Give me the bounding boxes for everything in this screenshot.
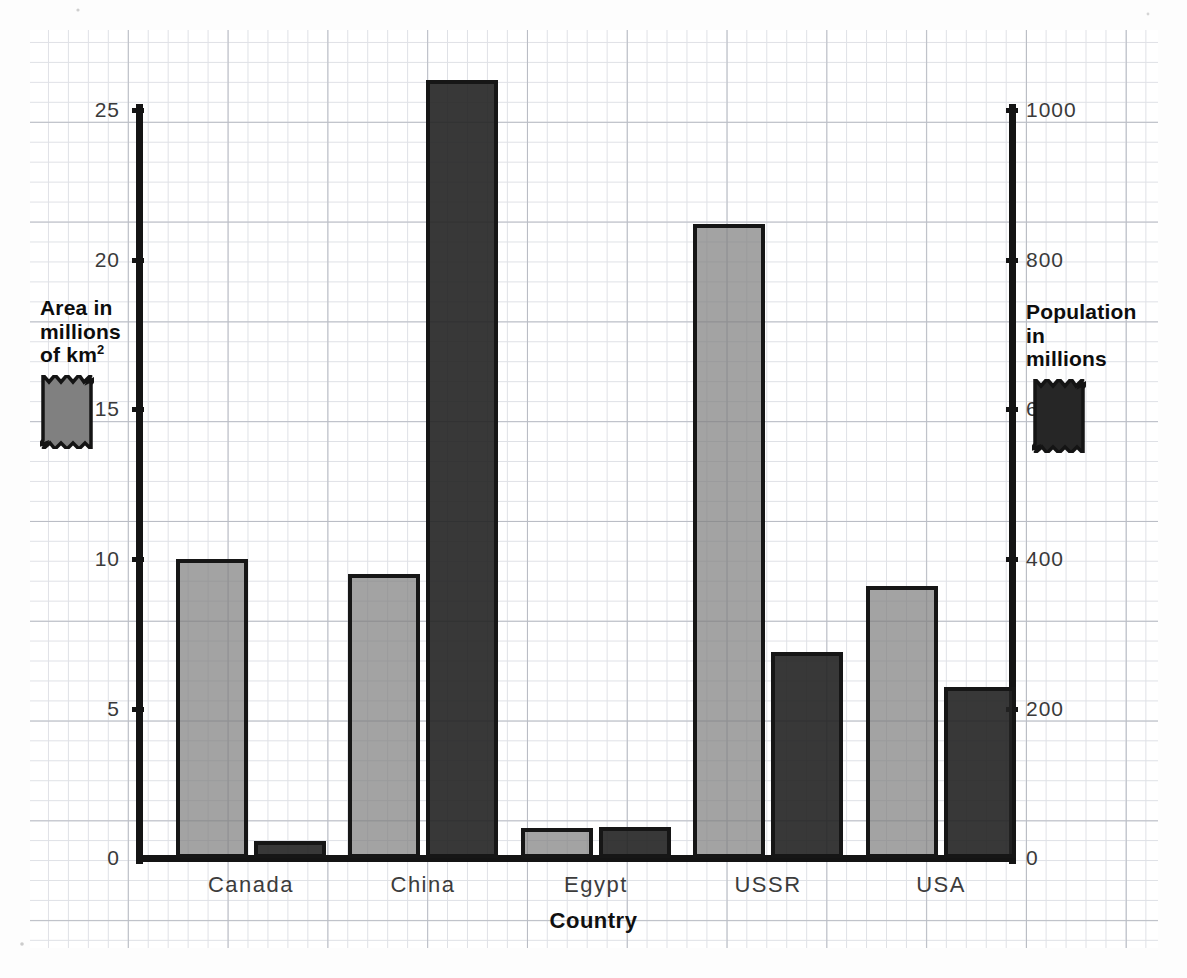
bar-area-egypt (521, 828, 593, 858)
x-axis-label-china: China (328, 872, 518, 898)
y-left-tick-20 (132, 258, 144, 263)
x-axis-label-usa: USA (846, 872, 1036, 898)
y-axis-left-line (136, 104, 143, 864)
x-axis-label-ussr: USSR (673, 872, 863, 898)
legend-area-line1: Area in (40, 296, 121, 320)
bar-area-china (348, 574, 420, 858)
legend-area-line3: of km2 (40, 343, 121, 367)
legend-population: Population in millions (1026, 300, 1137, 453)
bar-area-canada (176, 559, 248, 858)
x-axis-title: Country (0, 908, 1187, 934)
y-right-tick-400 (1006, 557, 1018, 562)
legend-area-swatch (40, 375, 94, 449)
legend-area-superscript: 2 (97, 342, 104, 357)
bar-area-ussr (693, 224, 765, 858)
y-right-label-0: 0 (1026, 846, 1039, 870)
bar-population-egypt (599, 827, 671, 858)
y-right-tick-1000 (1006, 108, 1018, 113)
y-right-tick-800 (1006, 258, 1018, 263)
y-left-label-25: 25 (60, 98, 120, 122)
legend-area-line2: millions (40, 320, 121, 344)
y-left-tick-5 (132, 707, 144, 712)
bar-population-china (426, 80, 498, 858)
y-right-label-800: 800 (1026, 248, 1064, 272)
bar-population-canada (254, 841, 326, 858)
y-right-tick-600 (1006, 407, 1018, 412)
legend-population-swatch (1032, 379, 1086, 453)
y-left-label-20: 20 (60, 248, 120, 272)
bar-population-usa (944, 687, 1016, 858)
y-left-label-10: 10 (60, 547, 120, 571)
legend-area-text: Area in millions of km2 (40, 296, 121, 367)
legend-population-text: Population in millions (1026, 300, 1137, 371)
y-right-label-200: 200 (1026, 697, 1064, 721)
y-left-tick-25 (132, 108, 144, 113)
legend-population-line1: Population (1026, 300, 1137, 324)
y-left-label-5: 5 (60, 697, 120, 721)
bar-area-usa (866, 586, 938, 858)
chart-root: 25 20 15 10 5 0 1000 800 600 400 200 0 C… (0, 0, 1187, 978)
legend-population-line3: millions (1026, 347, 1137, 371)
legend-area-line3-text: of km (40, 343, 97, 366)
y-left-tick-15 (132, 407, 144, 412)
x-axis-label-egypt: Egypt (501, 872, 691, 898)
y-left-tick-10 (132, 557, 144, 562)
y-right-label-1000: 1000 (1026, 98, 1077, 122)
legend-area: Area in millions of km2 (40, 296, 121, 449)
y-right-label-400: 400 (1026, 547, 1064, 571)
legend-population-line2: in (1026, 324, 1137, 348)
y-left-label-0: 0 (60, 846, 120, 870)
x-axis-label-canada: Canada (156, 872, 346, 898)
bar-population-ussr (771, 652, 843, 858)
